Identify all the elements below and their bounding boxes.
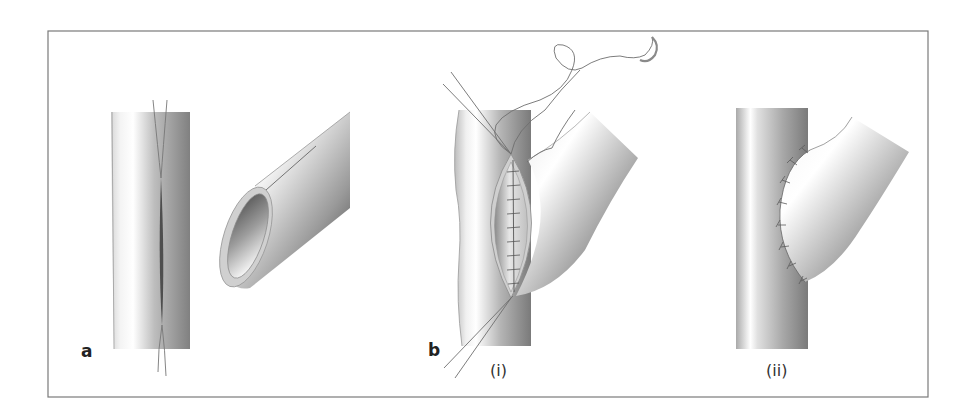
panel-b-i: b (i)	[428, 37, 657, 380]
panel-a: a	[81, 100, 350, 376]
anastomosis-figure: a	[0, 0, 980, 416]
panel-label-b: b	[428, 340, 440, 360]
panel-label-a: a	[81, 341, 92, 361]
recipient-vessel-a	[111, 112, 190, 349]
subpanel-label-i: (i)	[490, 361, 507, 380]
donor-vessel-a	[209, 112, 350, 293]
figure-canvas: a	[0, 0, 980, 416]
panel-b-ii: (ii)	[736, 108, 909, 380]
needle-icon	[640, 37, 657, 61]
donor-vessel-b-i	[516, 112, 638, 296]
subpanel-label-ii: (ii)	[766, 361, 787, 380]
